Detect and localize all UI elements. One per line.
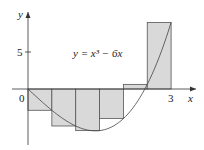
riemann-rectangle: [100, 89, 124, 119]
function-label: y = x³ − 6x: [72, 47, 122, 59]
riemann-rectangle: [52, 89, 76, 126]
x-tick-label: 0: [19, 92, 25, 104]
y-tick-label: 5: [17, 46, 23, 58]
y-axis-label: y: [17, 8, 23, 20]
riemann-rectangle: [123, 84, 147, 89]
plot-area: 503xyy = x³ − 6x: [0, 0, 204, 150]
riemann-rectangle: [76, 89, 100, 131]
x-axis-label: x: [187, 92, 193, 104]
riemann-sum-chart: 503xyy = x³ − 6x: [0, 0, 204, 150]
x-axis-arrow-icon: [190, 87, 196, 92]
x-tick-label: 3: [168, 92, 174, 104]
y-axis-arrow-icon: [26, 12, 31, 18]
